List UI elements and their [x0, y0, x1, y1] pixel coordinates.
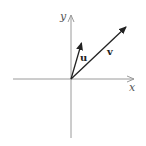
y-axis-label: y	[59, 10, 67, 23]
x-axis-label: x	[129, 81, 136, 94]
vector-v-label: v	[106, 46, 114, 57]
vector-u-label: u	[80, 52, 87, 63]
vector-diagram: x y u v	[0, 0, 146, 146]
